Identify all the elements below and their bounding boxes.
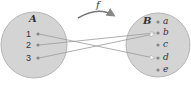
set-a-label: A [29,14,37,24]
dot-b-e [156,68,159,71]
element-2: 2 [26,41,31,50]
element-3: 3 [26,54,31,63]
element-a: a [163,17,168,26]
set-b-label: B [143,16,151,26]
dot-b-a [156,20,159,23]
function-arrow-icon [78,11,113,18]
element-e: e [163,65,168,74]
dot-b-d [156,56,159,59]
function-label: f [96,0,100,10]
dot-b-c [156,43,159,46]
element-b: b [163,28,169,37]
element-1: 1 [26,30,31,39]
element-d: d [163,53,169,62]
dot-b-b [156,31,159,34]
element-c: c [163,40,168,49]
